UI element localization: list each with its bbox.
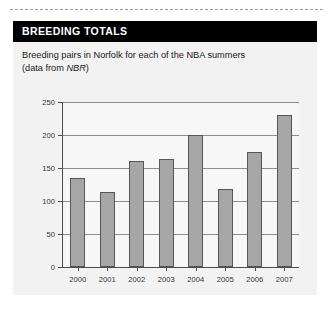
y-axis-label: 0 bbox=[51, 263, 55, 272]
x-axis-label-2003: 2003 bbox=[158, 275, 175, 284]
caption-line-2-prefix: (data from bbox=[22, 63, 66, 73]
x-axis-tick bbox=[196, 267, 197, 271]
x-axis-tick bbox=[107, 267, 108, 271]
gridline bbox=[63, 168, 299, 169]
caption-line-2-suffix: ) bbox=[86, 63, 89, 73]
gridline bbox=[63, 201, 299, 202]
bar-2001 bbox=[100, 192, 115, 267]
y-axis-label: 250 bbox=[42, 98, 55, 107]
page-title: BREEDING TOTALS bbox=[22, 25, 127, 37]
y-axis-tick bbox=[58, 267, 63, 268]
breeding-totals-panel: BREEDING TOTALS Breeding pairs in Norfol… bbox=[13, 21, 317, 295]
gridline bbox=[63, 234, 299, 235]
x-axis-label-2002: 2002 bbox=[128, 275, 145, 284]
y-axis-tick bbox=[58, 135, 63, 136]
x-axis-tick bbox=[284, 267, 285, 271]
x-axis-tick bbox=[137, 267, 138, 271]
page-root: BREEDING TOTALS Breeding pairs in Norfol… bbox=[0, 0, 333, 311]
y-axis-label: 150 bbox=[42, 164, 55, 173]
caption-source: NBR bbox=[66, 63, 85, 73]
breeding-pairs-bar-chart: 0501001502002502000200120022003200420052… bbox=[31, 94, 307, 286]
y-axis-label: 100 bbox=[42, 197, 55, 206]
bar-2000 bbox=[70, 178, 85, 267]
bar-2006 bbox=[247, 152, 262, 268]
y-axis-label: 200 bbox=[42, 131, 55, 140]
bar-2007 bbox=[277, 115, 292, 267]
gridline bbox=[63, 135, 299, 136]
x-axis-tick bbox=[255, 267, 256, 271]
x-axis-tick bbox=[166, 267, 167, 271]
plot-area: 0501001502002502000200120022003200420052… bbox=[62, 102, 299, 268]
panel-header: BREEDING TOTALS bbox=[13, 21, 317, 42]
caption-line-1: Breeding pairs in Norfolk for each of th… bbox=[22, 50, 245, 60]
x-axis-label-2005: 2005 bbox=[217, 275, 234, 284]
y-axis-tick bbox=[58, 102, 63, 103]
x-axis-label-2006: 2006 bbox=[246, 275, 263, 284]
panel-caption: Breeding pairs in Norfolk for each of th… bbox=[22, 49, 310, 74]
x-axis-tick bbox=[225, 267, 226, 271]
y-axis-tick bbox=[58, 201, 63, 202]
gridline bbox=[63, 102, 299, 103]
x-axis-label-2004: 2004 bbox=[187, 275, 204, 284]
y-axis-tick bbox=[58, 168, 63, 169]
bar-2003 bbox=[159, 159, 174, 267]
dashed-divider bbox=[10, 9, 323, 10]
bar-2005 bbox=[218, 189, 233, 267]
bar-2002 bbox=[129, 161, 144, 267]
x-axis-label-2000: 2000 bbox=[69, 275, 86, 284]
x-axis-tick bbox=[78, 267, 79, 271]
bar-2004 bbox=[188, 135, 203, 267]
y-axis-label: 50 bbox=[47, 230, 55, 239]
y-axis-tick bbox=[58, 234, 63, 235]
x-axis-label-2007: 2007 bbox=[276, 275, 293, 284]
x-axis-label-2001: 2001 bbox=[99, 275, 116, 284]
